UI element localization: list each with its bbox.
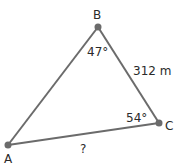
triangle-edges (8, 27, 159, 145)
vertex-c-dot (156, 120, 163, 127)
vertex-label-b: B (93, 8, 101, 22)
side-bc-length: 312 m (133, 64, 171, 78)
vertex-a-dot (5, 142, 12, 149)
vertex-label-c: C (165, 119, 173, 133)
vertex-points (5, 24, 163, 149)
triangle-diagram: B C A 47° 54° 312 m ? (0, 0, 184, 166)
angle-b-label: 47° (87, 45, 108, 59)
vertex-label-a: A (4, 152, 13, 166)
side-ac-unknown: ? (80, 142, 86, 156)
vertex-b-dot (95, 24, 102, 31)
side-ab (8, 27, 98, 145)
angle-c-label: 54° (126, 111, 147, 125)
